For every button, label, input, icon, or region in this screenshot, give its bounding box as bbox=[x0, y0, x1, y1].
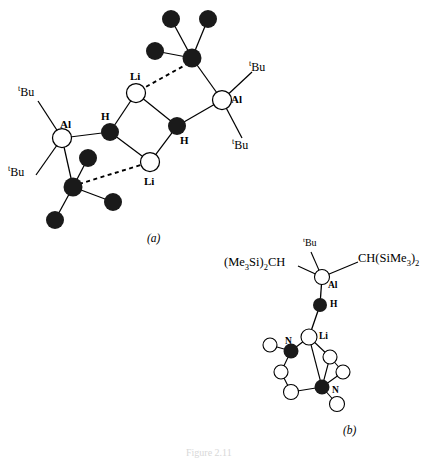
label-b-n-lower: N bbox=[332, 386, 339, 396]
structure-b-group bbox=[263, 252, 358, 412]
atom-b-c3 bbox=[284, 385, 299, 400]
atom-li-top bbox=[127, 84, 146, 103]
atom-h-right bbox=[168, 117, 186, 135]
tbu-text: Bu bbox=[20, 85, 34, 99]
left-group-post: CH bbox=[268, 255, 285, 269]
atom-b-n2 bbox=[315, 380, 330, 395]
caption-a: (a) bbox=[147, 232, 160, 244]
atom-c-bot-si2 bbox=[104, 193, 122, 211]
bond-dashed-c-bot-li-bottom bbox=[79, 164, 144, 184]
atom-b-h bbox=[313, 298, 327, 312]
atom-c-top bbox=[183, 49, 202, 68]
label-h-right: H bbox=[180, 135, 189, 146]
atom-b-c6 bbox=[330, 397, 345, 412]
figure-bottom-caption: Figure 2.11 bbox=[186, 447, 232, 458]
atom-li-bottom bbox=[141, 153, 160, 172]
label-tbu-lower-left: tBu bbox=[8, 165, 24, 178]
label-b-left-group: (Me3Si)2CH bbox=[224, 256, 285, 271]
right-group-sub2: 2 bbox=[415, 258, 419, 268]
atom-al-left bbox=[53, 129, 72, 148]
label-al-right: Al bbox=[231, 94, 242, 105]
atom-b-c5 bbox=[336, 365, 350, 379]
label-b-tbu: tBu bbox=[303, 237, 317, 248]
right-group-pre: CH(SiMe bbox=[358, 251, 407, 265]
label-h-left: H bbox=[101, 111, 110, 122]
atom-c-top-si3 bbox=[146, 42, 164, 60]
tbu-text: Bu bbox=[305, 237, 317, 248]
atom-al-right bbox=[213, 91, 232, 110]
label-b-h: H bbox=[330, 300, 337, 310]
atom-c-top-si2 bbox=[199, 10, 217, 28]
label-tbu-upper-left: tBu bbox=[18, 85, 34, 98]
label-b-right-group: CH(SiMe3)2 bbox=[358, 252, 419, 267]
atom-c-bot-si1 bbox=[79, 149, 97, 167]
atom-c-bot bbox=[64, 178, 83, 197]
tbu-text: Bu bbox=[234, 138, 248, 152]
atom-b-c2 bbox=[274, 365, 288, 379]
bond-dashed-c-top-li-top bbox=[142, 63, 189, 89]
label-b-li: Li bbox=[319, 332, 328, 342]
atom-c-bot-si3 bbox=[46, 211, 64, 229]
label-li-top: Li bbox=[130, 71, 140, 82]
atom-b-c4 bbox=[323, 350, 337, 364]
label-li-bottom: Li bbox=[144, 176, 154, 187]
tbu-text: Bu bbox=[251, 60, 265, 74]
atom-c-top-si1 bbox=[162, 10, 180, 28]
label-b-n-upper: N bbox=[285, 337, 292, 347]
atom-h-left bbox=[101, 123, 119, 141]
tbu-text: Bu bbox=[10, 165, 24, 179]
left-group-pre: (Me bbox=[224, 255, 245, 269]
label-tbu-upper-right: tBu bbox=[249, 60, 265, 73]
label-b-al: Al bbox=[328, 281, 338, 291]
label-tbu-lower-right: tBu bbox=[232, 138, 248, 151]
atom-b-c1 bbox=[263, 338, 277, 352]
label-al-left: Al bbox=[60, 119, 71, 130]
atom-b-li bbox=[301, 329, 317, 345]
left-group-mid: Si) bbox=[249, 255, 264, 269]
caption-b: (b) bbox=[343, 424, 356, 436]
